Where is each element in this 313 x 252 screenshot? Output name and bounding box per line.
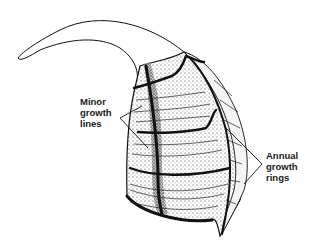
annual-growth-rings-label: Annual growth rings <box>266 150 298 183</box>
horn-outline <box>18 21 247 236</box>
minor-growth-lines-label: Minor growth lines <box>80 96 112 129</box>
horn-diagram <box>0 0 313 252</box>
